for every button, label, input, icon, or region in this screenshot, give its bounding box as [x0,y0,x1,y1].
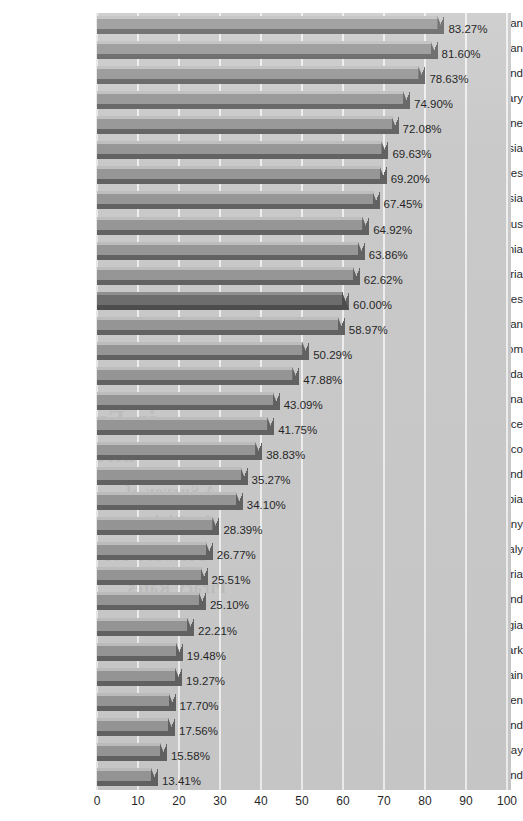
bar-row[interactable] [96,589,511,614]
bar-belarus[interactable] [97,214,363,239]
bar-philippines[interactable] [97,163,381,188]
bar-row[interactable] [96,740,511,765]
bar-body [97,743,161,756]
bar-body [97,367,293,380]
bar-united-kingdom[interactable] [97,339,303,364]
bar-row[interactable] [96,163,511,188]
bar-end-cap [201,567,208,585]
bar-pakistan[interactable] [97,38,432,63]
bar-row[interactable] [96,314,511,339]
bar-end-cap [241,467,248,485]
bar-nigeria[interactable] [97,264,354,289]
value-label-sweden: 17.70% [180,700,219,712]
bar-end-cap [175,668,182,686]
bar-row[interactable] [96,765,511,790]
bar-row[interactable] [96,615,511,640]
value-label-russia: 67.45% [384,198,423,210]
bar-chart-figure: TaiwanPakistanThailandHungaryUkraineMala… [0,0,523,821]
x-tick-label-50: 50 [295,794,308,808]
bar-iceland[interactable] [97,765,152,790]
bar-italy[interactable] [97,539,207,564]
bar-depth-shadow [97,305,343,310]
bar-finland[interactable] [97,464,242,489]
value-label-canada: 47.88% [303,374,342,386]
bar-row[interactable] [96,690,511,715]
bar-body [97,267,354,280]
bar-spain[interactable] [97,665,176,690]
bar-depth-shadow [97,430,268,435]
bar-row[interactable] [96,138,511,163]
bar-united-states[interactable] [97,289,343,314]
bar-malaysia[interactable] [97,138,382,163]
bar-argentina[interactable] [97,389,274,414]
bar-japan[interactable] [97,314,339,339]
bar-end-cap [338,317,345,335]
bar-row[interactable] [96,514,511,539]
bar-depth-shadow [97,631,188,636]
bar-end-cap [160,743,167,761]
bar-ireland[interactable] [97,715,169,740]
bar-france[interactable] [97,414,268,439]
bar-end-cap [292,367,299,385]
bar-row[interactable] [96,640,511,665]
bar-body [97,317,339,330]
bar-depth-shadow [97,530,213,535]
value-label-france: 41.75% [278,424,317,436]
bar-body [97,542,207,555]
bar-body [97,91,404,104]
value-label-estonia: 63.86% [369,249,408,261]
bar-end-cap [168,718,175,736]
bar-russia[interactable] [97,188,374,213]
bar-estonia[interactable] [97,239,359,264]
bar-row[interactable] [96,564,511,589]
bar-mexico[interactable] [97,439,256,464]
bar-row[interactable] [96,264,511,289]
bar-norway[interactable] [97,740,161,765]
bar-depth-shadow [97,455,256,460]
bar-ukraine[interactable] [97,113,393,138]
bar-depth-shadow [97,129,393,134]
bar-sweden[interactable] [97,690,170,715]
bar-body [97,442,256,455]
bar-row[interactable] [96,239,511,264]
bar-depth-shadow [97,405,274,410]
bar-body [97,592,200,605]
value-label-thailand: 78.63% [429,73,468,85]
bar-thailand[interactable] [97,63,419,88]
bar-hungary[interactable] [97,88,404,113]
bar-switzerland[interactable] [97,589,200,614]
value-label-norway: 15.58% [171,750,210,762]
bar-body [97,643,177,656]
bar-austria[interactable] [97,564,202,589]
bar-colombia[interactable] [97,489,237,514]
bar-end-cap [176,643,183,661]
bar-germany[interactable] [97,514,213,539]
bar-row[interactable] [96,715,511,740]
bar-denmark[interactable] [97,640,177,665]
bar-georgia[interactable] [97,615,188,640]
bar-depth-shadow [97,104,404,109]
bar-canada[interactable] [97,364,293,389]
bar-row[interactable] [96,214,511,239]
value-label-japan: 58.97% [349,324,388,336]
value-label-colombia: 34.10% [247,499,286,511]
value-label-austria: 25.51% [212,574,251,586]
bar-row[interactable] [96,188,511,213]
bar-body [97,166,381,179]
value-label-argentina: 43.09% [284,399,323,411]
bar-row[interactable] [96,339,511,364]
bar-row[interactable] [96,464,511,489]
bar-body [97,693,170,706]
bar-body [97,191,374,204]
bar-taiwan[interactable] [97,13,438,38]
bar-end-cap [342,292,349,310]
bar-body [97,417,268,430]
bar-row[interactable] [96,665,511,690]
value-label-philippines: 69.20% [391,173,430,185]
bar-row[interactable] [96,539,511,564]
bar-depth-shadow [97,79,419,84]
bar-end-cap [358,242,365,260]
bar-row[interactable] [96,489,511,514]
bar-row[interactable] [96,113,511,138]
bar-row[interactable] [96,289,511,314]
